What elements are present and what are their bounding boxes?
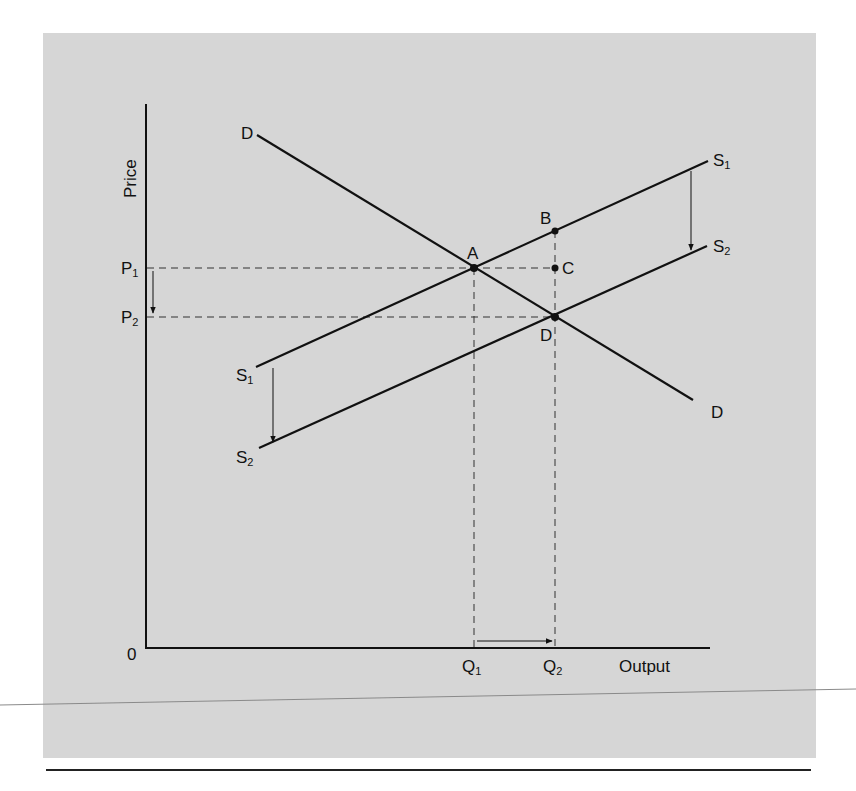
s1-label-left: S1 (236, 366, 253, 386)
y-axis-title: Price (121, 159, 140, 198)
p2-label: P2 (121, 308, 138, 328)
point-a-marker (470, 264, 478, 272)
supply-curve-s2 (259, 246, 707, 448)
origin-label: 0 (127, 645, 136, 664)
demand-label-top: D (241, 124, 253, 143)
supply-demand-diagram: Price Output 0 D D S1 S2 S1 S2 P1 P2 Q1 … (0, 0, 856, 791)
q2-label: Q2 (543, 657, 562, 677)
point-c-marker (552, 265, 559, 272)
q1-label: Q1 (462, 657, 481, 677)
point-b-label: B (540, 209, 551, 228)
s2-label-left: S2 (236, 448, 253, 468)
demand-label-bottom: D (711, 403, 723, 422)
point-c-label: C (562, 259, 574, 278)
point-a-label: A (467, 244, 479, 263)
point-b-marker (552, 228, 559, 235)
point-d-marker (551, 313, 559, 321)
x-axis-title: Output (619, 657, 670, 676)
s1-label-right: S1 (713, 151, 730, 171)
p1-label: P1 (121, 259, 138, 279)
guide-lines (147, 231, 555, 648)
s2-label-right: S2 (713, 237, 730, 257)
supply-curve-s1 (256, 161, 708, 367)
point-d-label: D (540, 326, 552, 345)
stray-line (0, 689, 856, 705)
